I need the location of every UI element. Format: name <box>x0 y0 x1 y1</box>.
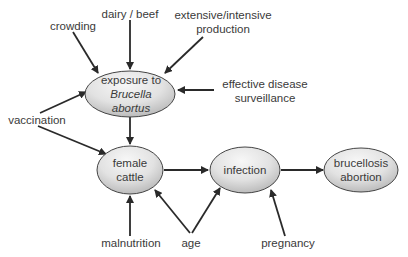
node-abortion-line1: brucellosis <box>334 156 388 170</box>
node-female-cattle-line2: cattle <box>113 170 148 184</box>
factor-age: age <box>181 236 200 250</box>
edge-vaccination-cattle <box>38 126 106 154</box>
node-infection-line1: infection <box>224 163 267 177</box>
node-exposure-line1: exposure to <box>101 73 161 87</box>
factor-dairy-beef: dairy / beef <box>102 7 159 21</box>
edge-age-cattle <box>155 190 190 233</box>
factor-pregnancy: pregnancy <box>261 236 315 250</box>
node-abortion-label: brucellosis abortion <box>334 156 388 184</box>
node-abortion-line2: abortion <box>334 170 388 184</box>
factor-vaccination: vaccination <box>8 113 66 127</box>
factor-surveillance-line2: surveillance <box>222 91 307 105</box>
node-infection-label: infection <box>224 163 267 177</box>
edge-production-exposure <box>165 37 203 73</box>
factor-production-line2: production <box>174 22 271 36</box>
node-female-cattle-label: female cattle <box>113 156 148 184</box>
factor-production-line1: extensive/intensive <box>174 8 271 22</box>
factor-malnutrition: malnutrition <box>101 236 160 250</box>
node-exposure-line2: Brucella <box>101 87 161 101</box>
factor-surveillance: effective disease surveillance <box>222 77 307 105</box>
causal-diagram <box>0 0 408 257</box>
factor-surveillance-line1: effective disease <box>222 77 307 91</box>
node-exposure-line3: abortus <box>101 101 161 115</box>
factor-production: extensive/intensive production <box>174 8 271 36</box>
edge-vaccination-exposure <box>40 92 86 113</box>
edge-crowding-exposure <box>73 32 98 73</box>
node-female-cattle-line1: female <box>113 156 148 170</box>
edge-age-infection <box>192 188 220 233</box>
factor-crowding: crowding <box>50 19 96 33</box>
edge-pregnancy-infection <box>271 190 285 236</box>
node-exposure-label: exposure to Brucella abortus <box>101 73 161 115</box>
